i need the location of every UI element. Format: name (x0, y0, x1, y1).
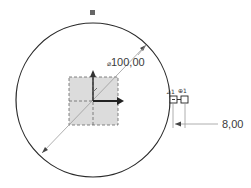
offset-dimension-label[interactable]: 8,00 (222, 118, 243, 130)
sketch-canvas[interactable] (0, 0, 251, 188)
constraint-symbol-2: ⊕1 (178, 87, 187, 94)
coincident-constraint-markers[interactable] (170, 96, 188, 103)
constraint-symbol-1: ⊿1 (166, 88, 175, 95)
sketch-point[interactable] (90, 10, 95, 15)
offset-dimension-line[interactable] (173, 103, 218, 128)
diameter-dimension-label[interactable]: ⌀100,00 (107, 56, 145, 68)
diameter-value: 100,00 (111, 56, 145, 68)
